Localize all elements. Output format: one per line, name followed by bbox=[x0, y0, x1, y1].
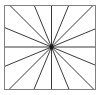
center-convergence-point bbox=[49, 45, 53, 49]
sunburst-diagram bbox=[0, 0, 104, 95]
figure-root bbox=[0, 0, 104, 95]
